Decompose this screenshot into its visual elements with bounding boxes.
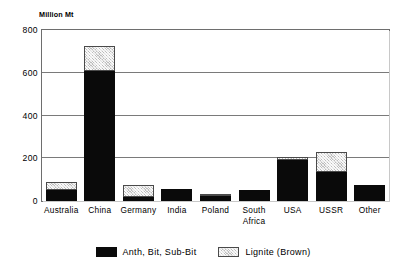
legend-swatch-icon	[218, 247, 239, 257]
bar-group[interactable]	[277, 30, 308, 201]
x-axis-tick-labels: AustraliaChinaGermanyIndiaPolandSouth Af…	[42, 205, 389, 233]
bar-stack	[354, 185, 385, 201]
legend-label: Lignite (Brown)	[245, 247, 310, 257]
bar-segment[interactable]	[84, 46, 115, 72]
bar-stack	[84, 46, 115, 201]
bar-stack	[277, 157, 308, 201]
bar-segment[interactable]	[46, 182, 77, 191]
bar-segment[interactable]	[123, 197, 154, 201]
bar-segment[interactable]	[354, 185, 385, 201]
y-axis-tick-labels: 0200400600800	[0, 29, 38, 202]
legend-item[interactable]: Lignite (Brown)	[218, 247, 310, 257]
chart-legend: Anth, Bit, Sub-BitLignite (Brown)	[0, 247, 406, 257]
bar-segment[interactable]	[161, 189, 192, 201]
bar-stack	[123, 185, 154, 201]
bar-series-container	[42, 30, 389, 201]
x-tick-label: Poland	[196, 205, 235, 216]
bar-group[interactable]	[239, 30, 270, 201]
x-tick-label: Other	[350, 205, 389, 216]
x-tick-label: India	[158, 205, 197, 216]
bar-segment[interactable]	[84, 71, 115, 201]
y-tick-label-0: 0	[2, 196, 38, 206]
x-tick-label: China	[81, 205, 120, 216]
bar-segment[interactable]	[316, 172, 347, 201]
bar-stack	[161, 189, 192, 201]
bar-segment[interactable]	[123, 185, 154, 197]
legend-item[interactable]: Anth, Bit, Sub-Bit	[96, 247, 197, 257]
chart-figure: Million Mt 0200400600800 AustraliaChinaG…	[0, 0, 406, 271]
x-tick-label: USSR	[312, 205, 351, 216]
legend-swatch-icon	[96, 247, 117, 257]
y-axis-title: Million Mt	[39, 10, 74, 19]
bar-group[interactable]	[200, 30, 231, 201]
x-tick-label: Australia	[42, 205, 81, 216]
y-tick-label-200: 200	[2, 153, 38, 163]
y-tick-label-600: 600	[2, 68, 38, 78]
legend-label: Anth, Bit, Sub-Bit	[123, 247, 197, 257]
y-tick-label-800: 800	[2, 25, 38, 35]
bar-segment[interactable]	[46, 190, 77, 201]
bar-group[interactable]	[316, 30, 347, 201]
bar-group[interactable]	[161, 30, 192, 201]
bar-segment[interactable]	[200, 196, 231, 201]
bar-segment[interactable]	[239, 190, 270, 201]
bar-group[interactable]	[123, 30, 154, 201]
bar-stack	[46, 182, 77, 201]
bar-segment[interactable]	[277, 160, 308, 201]
x-tick-label: USA	[273, 205, 312, 216]
x-tick-label: South Africa	[235, 205, 274, 226]
y-tick-label-400: 400	[2, 111, 38, 121]
bar-stack	[239, 190, 270, 201]
bar-stack	[200, 194, 231, 201]
bar-group[interactable]	[46, 30, 77, 201]
bar-segment[interactable]	[316, 152, 347, 172]
bar-group[interactable]	[354, 30, 385, 201]
bar-stack	[316, 152, 347, 201]
x-tick-label: Germany	[119, 205, 158, 216]
bar-group[interactable]	[84, 30, 115, 201]
